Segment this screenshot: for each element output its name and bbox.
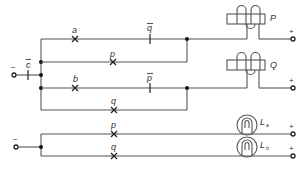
lower-circuit: − p L a + q L b	[13, 115, 295, 159]
junction-dot	[185, 86, 189, 90]
label-p-bar: p	[146, 73, 152, 83]
input-terminal-minus	[12, 73, 16, 77]
input-terminal-minus-lower	[14, 145, 18, 149]
plus-sign-Lb: +	[289, 144, 294, 153]
plus-sign-La: +	[289, 122, 294, 131]
label-L-b-subscript: b	[266, 145, 269, 151]
upper-circuit: − c a q p	[11, 6, 295, 114]
terminal-plus-P	[291, 37, 295, 41]
label-p-lamp: p	[110, 120, 116, 130]
circuit-diagram: − c a q p	[0, 0, 308, 171]
terminal-plus-Q	[291, 86, 295, 90]
label-a: a	[72, 25, 77, 35]
junction-dot	[39, 73, 43, 77]
plus-sign-Q: +	[289, 76, 294, 85]
label-Q: Q	[270, 60, 277, 70]
relay-q	[227, 53, 265, 89]
label-L-b: L	[260, 140, 265, 150]
label-q-lamp: q	[111, 142, 116, 152]
label-P: P	[270, 13, 276, 23]
input-minus-sign: −	[11, 63, 16, 72]
lamp-b-icon	[237, 137, 257, 157]
terminal-plus-La	[291, 132, 295, 136]
lamp-a-icon	[237, 115, 257, 135]
junction-dot	[185, 37, 189, 41]
junction-dot	[39, 145, 43, 149]
label-L-a: L	[260, 117, 265, 127]
label-q: q	[111, 96, 116, 106]
label-q-bar: q	[147, 23, 152, 33]
label-L-a-subscript: a	[266, 122, 269, 128]
input-minus-sign-lower: −	[13, 135, 18, 144]
relay-p	[227, 6, 265, 40]
label-p: p	[109, 49, 115, 59]
plus-sign-P: +	[289, 27, 294, 36]
label-c: c	[26, 60, 31, 70]
label-b: b	[73, 74, 78, 84]
terminal-plus-Lb	[291, 154, 295, 158]
